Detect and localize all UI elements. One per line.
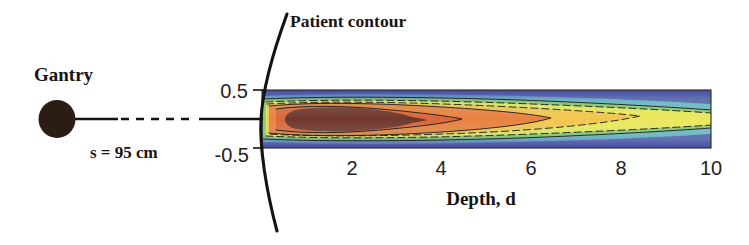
figure-canvas: Gantry Patient contour s = 95 cm 0.5 -0.… <box>0 0 749 245</box>
source-axis-distance-label: s = 95 cm <box>90 143 158 162</box>
dose-distribution-field <box>262 90 711 148</box>
x-axis-tick-label-2: 2 <box>346 157 357 179</box>
x-axis-tick-label-6: 6 <box>525 157 536 179</box>
patient-contour-label: Patient contour <box>290 11 406 31</box>
x-axis-title: Depth, d <box>446 188 516 209</box>
gantry-label: Gantry <box>34 64 94 85</box>
x-axis-tick-label-10: 10 <box>700 157 722 179</box>
gantry-source-circle <box>39 100 76 138</box>
y-axis-tick-top-label: 0.5 <box>220 80 248 102</box>
radiotherapy-dose-figure: Gantry Patient contour s = 95 cm 0.5 -0.… <box>0 0 749 245</box>
x-axis-tick-label-8: 8 <box>615 157 626 179</box>
y-axis-tick-bottom-label: -0.5 <box>215 144 249 166</box>
x-axis-tick-label-4: 4 <box>435 157 446 179</box>
